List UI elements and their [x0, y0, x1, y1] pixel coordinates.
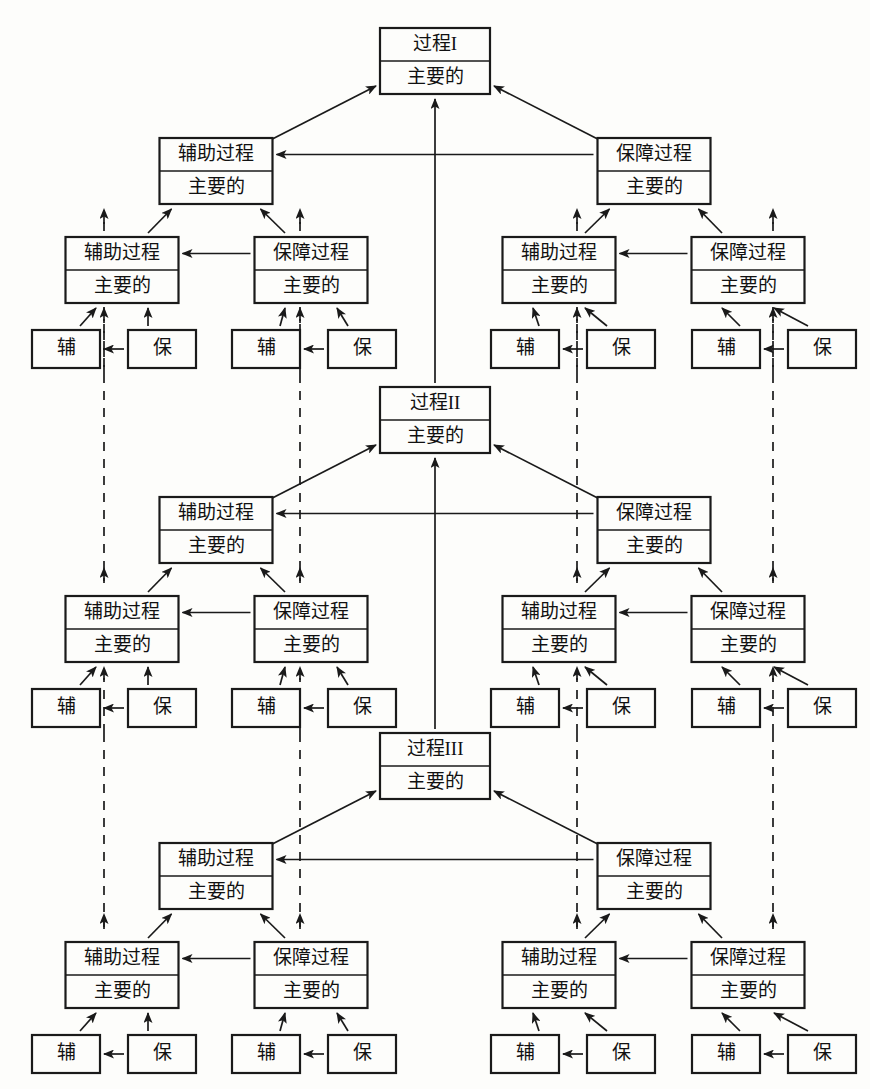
t3-edge-leaf-3-to-l3-1 — [337, 1013, 348, 1031]
t3-l3-sup-process-1-subtitle: 主要的 — [283, 980, 340, 1001]
t2-leaf-6[interactable]: 辅 — [692, 689, 760, 727]
t1-leaf-5-label: 保 — [612, 337, 631, 358]
t1-leaf-4[interactable]: 辅 — [491, 330, 559, 368]
t3-leaf-5-label: 保 — [612, 1042, 631, 1063]
t1-leaf-6-label: 辅 — [717, 337, 736, 358]
t2-leaf-1[interactable]: 保 — [128, 689, 196, 727]
t1-aux-process-l-subtitle: 主要的 — [188, 176, 245, 197]
t3-leaf-6[interactable]: 辅 — [692, 1035, 760, 1073]
t1-edge-leaf-6-to-l3-3 — [722, 308, 740, 326]
t3-l3-sup-process-1-title: 保障过程 — [273, 947, 349, 968]
t1-leaf-2-label: 辅 — [257, 337, 276, 358]
t2-edge-l3-3-to-l2-1 — [699, 568, 723, 592]
t1-leaf-7[interactable]: 保 — [788, 330, 856, 368]
t1-leaf-2[interactable]: 辅 — [232, 330, 300, 368]
t3-l3-sup-process-3-title: 保障过程 — [710, 947, 786, 968]
t2-leaf-7-label: 保 — [813, 696, 832, 717]
t1-leaf-1[interactable]: 保 — [128, 330, 196, 368]
t2-edge-l2r-to-root — [494, 445, 604, 501]
process-2-title: 过程II — [410, 392, 461, 413]
t1-l3-aux-process-2-subtitle: 主要的 — [531, 275, 588, 296]
t2-aux-process-l[interactable]: 辅助过程主要的 — [160, 497, 273, 563]
t2-sup-process-r[interactable]: 保障过程主要的 — [598, 497, 711, 563]
t1-leaf-5[interactable]: 保 — [587, 330, 655, 368]
t2-edge-leaf-7-to-l3-3 — [774, 667, 808, 685]
t3-leaf-0-label: 辅 — [57, 1042, 76, 1063]
t3-sup-process-r[interactable]: 保障过程主要的 — [598, 843, 711, 909]
t1-edge-l3-3-to-l2-1 — [699, 209, 723, 233]
t2-edge-l3-2-to-l2-1 — [585, 568, 610, 592]
t1-l3-sup-process-3[interactable]: 保障过程主要的 — [692, 237, 805, 303]
t3-l3-aux-process-2[interactable]: 辅助过程主要的 — [503, 942, 616, 1008]
t1-leaf-1-label: 保 — [153, 337, 172, 358]
t1-l3-sup-process-3-title: 保障过程 — [710, 242, 786, 263]
t1-l3-sup-process-1[interactable]: 保障过程主要的 — [255, 237, 368, 303]
t3-edge-leaf-6-to-l3-3 — [722, 1013, 740, 1031]
t1-sup-process-r-title: 保障过程 — [616, 143, 692, 164]
t1-leaf-6[interactable]: 辅 — [692, 330, 760, 368]
t2-sup-process-r-subtitle: 主要的 — [626, 535, 683, 556]
process-1[interactable]: 过程I主要的 — [380, 28, 490, 94]
t3-leaf-3[interactable]: 保 — [328, 1035, 396, 1073]
t1-leaf-3[interactable]: 保 — [328, 330, 396, 368]
t2-l3-aux-process-2[interactable]: 辅助过程主要的 — [503, 596, 616, 662]
t2-leaf-5[interactable]: 保 — [587, 689, 655, 727]
t3-l3-sup-process-1[interactable]: 保障过程主要的 — [255, 942, 368, 1008]
t3-edge-leaf-7-to-l3-3 — [774, 1013, 808, 1031]
t1-sup-process-r-subtitle: 主要的 — [626, 176, 683, 197]
t1-edge-leaf-4-to-l3-2 — [533, 308, 539, 326]
t3-l3-sup-process-3-subtitle: 主要的 — [720, 980, 777, 1001]
t1-aux-process-l[interactable]: 辅助过程主要的 — [160, 138, 273, 204]
t1-leaf-3-label: 保 — [353, 337, 372, 358]
t3-leaf-7[interactable]: 保 — [788, 1035, 856, 1073]
process-3[interactable]: 过程III主要的 — [380, 733, 490, 799]
process-1-title: 过程I — [413, 33, 457, 54]
t2-leaf-2-label: 辅 — [257, 696, 276, 717]
t3-edge-l3-2-to-l2-1 — [585, 914, 610, 938]
t3-l3-aux-process-0[interactable]: 辅助过程主要的 — [66, 942, 179, 1008]
process-3-title: 过程III — [407, 738, 464, 759]
t1-sup-process-r[interactable]: 保障过程主要的 — [598, 138, 711, 204]
t1-l3-aux-process-2[interactable]: 辅助过程主要的 — [503, 237, 616, 303]
t2-edge-leaf-5-to-l3-2 — [585, 667, 607, 685]
t1-leaf-0-label: 辅 — [57, 337, 76, 358]
t1-l3-aux-process-0[interactable]: 辅助过程主要的 — [66, 237, 179, 303]
t2-leaf-2[interactable]: 辅 — [232, 689, 300, 727]
t2-edge-leaf-2-to-l3-1 — [280, 667, 285, 685]
t2-leaf-7[interactable]: 保 — [788, 689, 856, 727]
t2-l3-sup-process-3[interactable]: 保障过程主要的 — [692, 596, 805, 662]
t3-leaf-4[interactable]: 辅 — [491, 1035, 559, 1073]
t1-l3-aux-process-0-title: 辅助过程 — [84, 242, 160, 263]
t2-edge-l3-1-to-l2-0 — [261, 568, 286, 592]
t2-leaf-5-label: 保 — [612, 696, 631, 717]
t3-leaf-5[interactable]: 保 — [587, 1035, 655, 1073]
t1-edge-l3-1-to-l2-0 — [261, 209, 286, 233]
t2-leaf-0[interactable]: 辅 — [32, 689, 100, 727]
process-2[interactable]: 过程II主要的 — [380, 387, 490, 453]
t3-edge-l2r-to-root — [494, 791, 604, 847]
t2-edge-leaf-4-to-l3-2 — [533, 667, 539, 685]
t1-l3-aux-process-2-title: 辅助过程 — [521, 242, 597, 263]
t2-leaf-4[interactable]: 辅 — [491, 689, 559, 727]
t2-l3-aux-process-0[interactable]: 辅助过程主要的 — [66, 596, 179, 662]
t2-l3-sup-process-1-title: 保障过程 — [273, 601, 349, 622]
t2-leaf-3[interactable]: 保 — [328, 689, 396, 727]
t2-leaf-4-label: 辅 — [516, 696, 535, 717]
t3-l3-sup-process-3[interactable]: 保障过程主要的 — [692, 942, 805, 1008]
t1-leaf-4-label: 辅 — [516, 337, 535, 358]
t1-edge-l3-0-to-l2-0 — [148, 209, 172, 233]
t2-edge-l2l-to-root — [267, 445, 377, 501]
t2-l3-sup-process-1[interactable]: 保障过程主要的 — [255, 596, 368, 662]
t3-leaf-0[interactable]: 辅 — [32, 1035, 100, 1073]
t3-edge-leaf-4-to-l3-2 — [533, 1013, 539, 1031]
t2-aux-process-l-subtitle: 主要的 — [188, 535, 245, 556]
t1-leaf-7-label: 保 — [813, 337, 832, 358]
t3-l3-aux-process-0-subtitle: 主要的 — [94, 980, 151, 1001]
t1-leaf-0[interactable]: 辅 — [32, 330, 100, 368]
t3-leaf-1[interactable]: 保 — [128, 1035, 196, 1073]
t1-edge-l3-2-to-l2-1 — [585, 209, 610, 233]
t3-edge-leaf-0-to-l3-0 — [80, 1013, 96, 1031]
t3-leaf-2[interactable]: 辅 — [232, 1035, 300, 1073]
t3-aux-process-l[interactable]: 辅助过程主要的 — [160, 843, 273, 909]
t2-leaf-0-label: 辅 — [57, 696, 76, 717]
